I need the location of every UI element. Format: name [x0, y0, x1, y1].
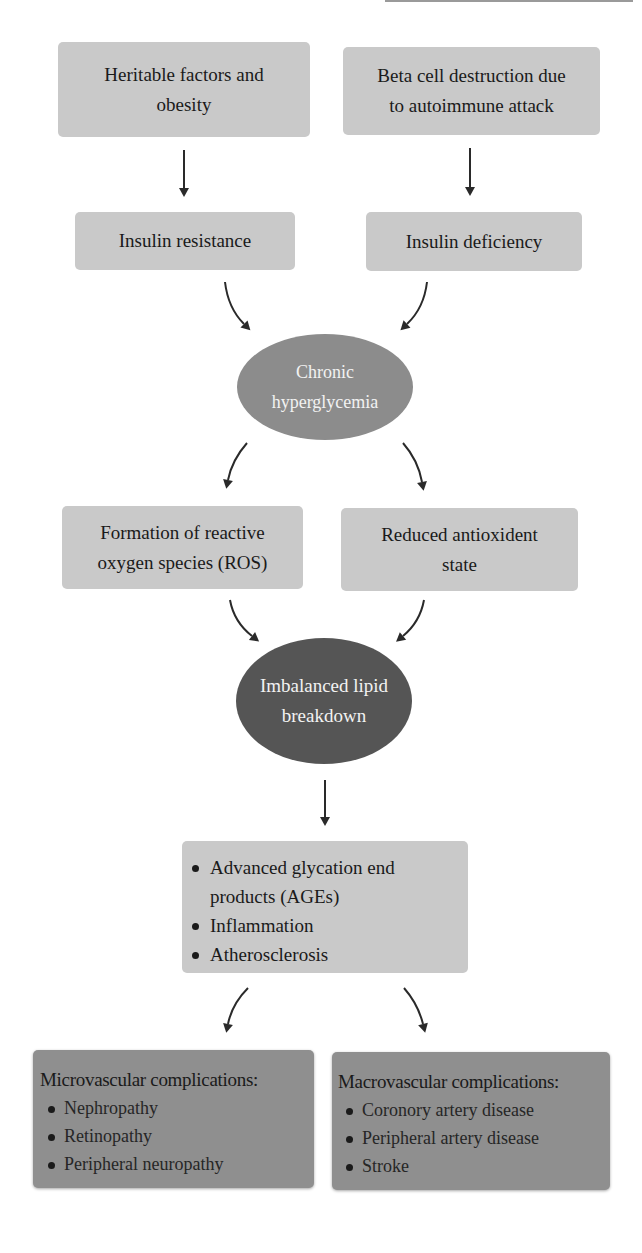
arrowhead-icon [417, 481, 427, 491]
node-text-line: Chronic [272, 357, 379, 387]
arrow-hyperglycemia-to-ros [228, 443, 247, 480]
node-chronic-hyperglycemia: Chronichyperglycemia [237, 334, 413, 440]
node-text: Insulin resistance [119, 226, 251, 256]
list-item: Peripheral neuropathy [42, 1150, 258, 1178]
node-imbalanced-lipid-breakdown: Imbalanced lipidbreakdown [236, 638, 412, 764]
list-item: Retinopathy [42, 1122, 258, 1150]
microvascular-list: Nephropathy Retinopathy Peripheral neuro… [40, 1094, 258, 1178]
node-beta-cell-destruction: Beta cell destruction dueto autoimmune a… [343, 47, 600, 135]
microvascular-title: Microvascular complications: [40, 1066, 258, 1094]
list-item-text: Inflammation [210, 915, 313, 936]
list-item: Stroke [340, 1152, 559, 1180]
arrowhead-icon [465, 187, 475, 196]
list-item-text: Peripheral artery disease [362, 1128, 539, 1148]
node-microvascular-complications: Microvascular complications: Nephropathy… [33, 1050, 314, 1188]
list-item: Inflammation [188, 911, 458, 940]
arrowhead-icon [418, 1023, 428, 1033]
arrowhead-icon [320, 817, 330, 826]
node-text-line: oxygen species (ROS) [98, 548, 268, 578]
arrow-antioxidant-to-lipid [403, 600, 424, 636]
arrow-outcomes-to-microvascular [228, 988, 248, 1024]
node-text-line: obesity [104, 90, 263, 120]
node-heritable-factors: Heritable factors andobesity [58, 42, 310, 137]
arrow-hyperglycemia-to-antioxidant [403, 443, 422, 482]
list-item: Nephropathy [42, 1094, 258, 1122]
outcomes-list: Advanced glycation end products (AGEs) I… [188, 853, 458, 969]
node-text-line: Formation of reactive [98, 518, 268, 548]
macrovascular-list: Coronory artery disease Peripheral arter… [338, 1096, 559, 1180]
list-item: Peripheral artery disease [340, 1124, 559, 1152]
node-text-line: Imbalanced lipid [260, 671, 388, 701]
list-item: Advanced glycation end products (AGEs) [188, 853, 458, 911]
arrow-outcomes-to-macrovascular [404, 988, 423, 1024]
list-item-text: Peripheral neuropathy [64, 1154, 223, 1174]
node-insulin-resistance: Insulin resistance [75, 212, 295, 270]
arrowhead-icon [179, 188, 189, 197]
node-text-line: hyperglycemia [272, 387, 379, 417]
node-text-line: Reduced antioxident [381, 520, 538, 550]
node-reduced-antioxidant: Reduced antioxidentstate [341, 508, 578, 591]
node-insulin-deficiency: Insulin deficiency [366, 212, 582, 271]
list-item-text: Coronory artery disease [362, 1100, 534, 1120]
list-item-text: Stroke [362, 1156, 409, 1176]
node-text-line: Beta cell destruction due [377, 61, 565, 91]
macrovascular-title: Macrovascular complications: [338, 1068, 559, 1096]
arrowhead-icon [223, 479, 233, 489]
arrow-insulin_deficiency-to-hyperglycemia [407, 282, 427, 324]
arrow-insulin_resistance-to-hyperglycemia [225, 282, 244, 324]
node-ros-formation: Formation of reactiveoxygen species (ROS… [62, 506, 303, 589]
node-text-line: state [381, 550, 538, 580]
list-item-text: Atherosclerosis [210, 944, 328, 965]
node-outcomes: Advanced glycation end products (AGEs) I… [182, 841, 468, 973]
list-item: Coronory artery disease [340, 1096, 559, 1124]
list-item-text: Nephropathy [64, 1098, 158, 1118]
arrow-ros-to-lipid [230, 600, 252, 636]
node-text-line: Heritable factors and [104, 60, 263, 90]
node-text: Insulin deficiency [406, 227, 543, 257]
arrowhead-icon [223, 1023, 233, 1033]
node-macrovascular-complications: Macrovascular complications: Coronory ar… [332, 1052, 610, 1190]
node-text-line: to autoimmune attack [377, 91, 565, 121]
list-item-text: Retinopathy [64, 1126, 152, 1146]
list-item-text: Advanced glycation end products (AGEs) [210, 857, 395, 907]
list-item: Atherosclerosis [188, 940, 458, 969]
node-text-line: breakdown [260, 701, 388, 731]
